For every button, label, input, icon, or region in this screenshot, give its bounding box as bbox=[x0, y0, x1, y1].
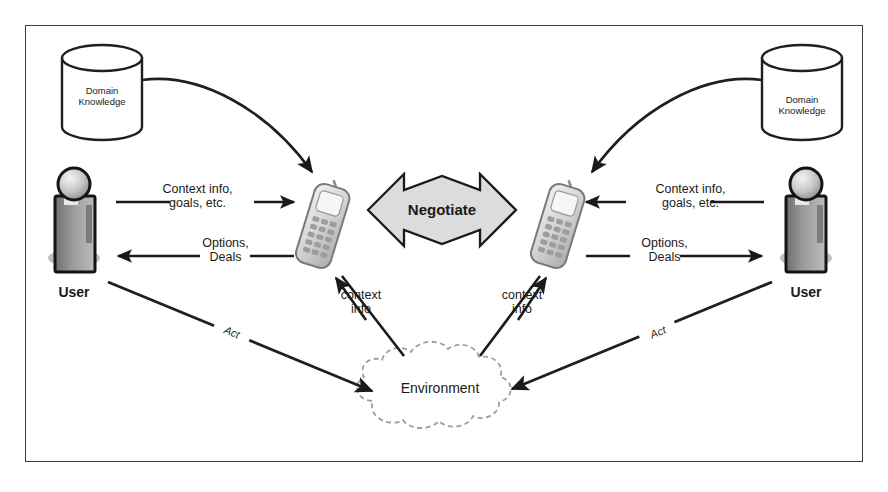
edge-label-env-context-left: context info bbox=[322, 288, 400, 316]
negotiate-label: Negotiate bbox=[382, 202, 502, 219]
edge-label-env-context-right: context info bbox=[483, 288, 561, 316]
db-left-label: Domain Knowledge bbox=[62, 86, 142, 107]
environment-label: Environment bbox=[392, 381, 488, 397]
user-right-label: User bbox=[766, 285, 846, 301]
edge-label-left-options-deals: Options, Deals bbox=[183, 236, 268, 264]
diagram-canvas: Domain Knowledge Domain Knowledge User U… bbox=[0, 0, 888, 492]
edge-label-right-context-info: Context info, goals, etc. bbox=[628, 182, 753, 210]
db-right-label: Domain Knowledge bbox=[762, 95, 842, 116]
user-left-label: User bbox=[34, 285, 114, 301]
edge-label-left-context-info: Context info, goals, etc. bbox=[135, 182, 260, 210]
edge-label-right-options-deals: Options, Deals bbox=[622, 236, 707, 264]
